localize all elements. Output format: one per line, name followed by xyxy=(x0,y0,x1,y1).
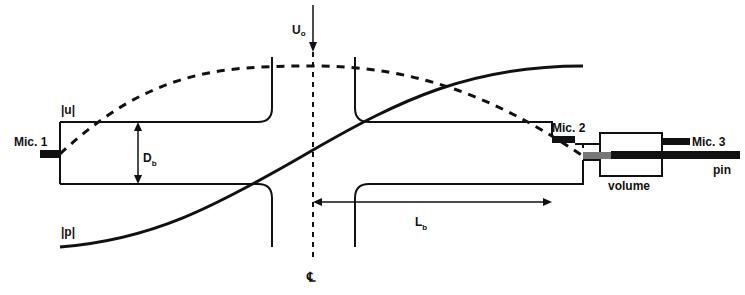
mic-3-sensor xyxy=(662,138,690,145)
volume-label: volume xyxy=(608,179,650,193)
diameter-arrow-head-top xyxy=(134,122,142,131)
duct-top-wall-left xyxy=(60,57,272,122)
duct-bottom-wall-left xyxy=(60,184,272,247)
diameter-label: Db xyxy=(143,151,157,168)
flow-label: Uo xyxy=(292,23,306,38)
mic-1-label: Mic. 1 xyxy=(14,135,48,149)
pin-rod xyxy=(611,151,740,159)
pin-hatched-section xyxy=(583,152,611,159)
velocity-label: |u| xyxy=(61,103,75,117)
duct-bottom-wall-right xyxy=(355,160,583,247)
mic-2-label: Mic. 2 xyxy=(552,121,586,135)
centerline-label: ℄ xyxy=(306,269,316,284)
pin-label: pin xyxy=(713,163,731,177)
pressure-label: |p| xyxy=(61,225,75,239)
diameter-arrow-head-bottom xyxy=(134,175,142,184)
length-label: Lb xyxy=(415,215,427,232)
mic-3-label: Mic. 3 xyxy=(692,135,726,149)
length-arrow-head-right xyxy=(543,198,552,206)
flow-arrow-head xyxy=(309,42,317,52)
mic-1-sensor xyxy=(40,150,60,158)
duct-right-end-top xyxy=(575,144,583,148)
length-arrow-head-left xyxy=(313,198,322,206)
acoustic-duct-diagram: Mic. 1 Mic. 2 Mic. 3 |u| |p| Db Lb Uo vo… xyxy=(0,0,745,295)
